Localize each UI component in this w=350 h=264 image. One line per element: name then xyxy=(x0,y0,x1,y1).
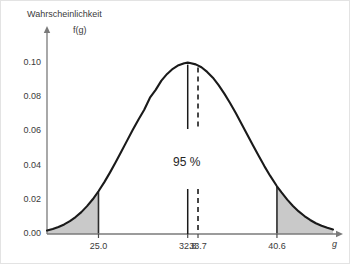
y-tick-label-0.00: 0.00 xyxy=(7,228,41,238)
x-axis-arrow xyxy=(336,231,343,237)
y-axis-arrow xyxy=(44,26,50,33)
x-tick-label-25.0: 25.0 xyxy=(78,241,118,251)
y-tick-label-0.04: 0.04 xyxy=(7,160,41,170)
y-tick-label-0.10: 0.10 xyxy=(7,57,41,67)
normal-distribution-plot xyxy=(1,1,350,264)
chart-figure: Wahrscheinlichkeit f(g) g 95 % 0.000.020… xyxy=(0,0,350,264)
x-axis-title: g xyxy=(332,239,337,249)
y-axis-title-line2: f(g) xyxy=(73,25,87,35)
x-tick-label-33.7: 33.7 xyxy=(178,241,218,251)
x-tick-label-40.6: 40.6 xyxy=(257,241,297,251)
y-tick-label-0.02: 0.02 xyxy=(7,194,41,204)
y-axis-title-line1: Wahrscheinlichkeit xyxy=(27,9,102,19)
y-tick-label-0.08: 0.08 xyxy=(7,91,41,101)
confidence-label: 95 % xyxy=(173,155,200,169)
y-tick-label-0.06: 0.06 xyxy=(7,125,41,135)
